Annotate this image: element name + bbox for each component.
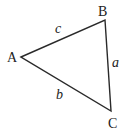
side-label-b: b (56, 87, 63, 102)
triangle-diagram: A B C c a b (0, 0, 125, 133)
side-label-c: c (55, 21, 62, 36)
vertex-label-b: B (98, 4, 107, 19)
vertex-label-a: A (7, 50, 18, 65)
vertex-label-c: C (108, 116, 117, 131)
side-label-a: a (112, 55, 119, 70)
triangle-abc (21, 20, 111, 111)
